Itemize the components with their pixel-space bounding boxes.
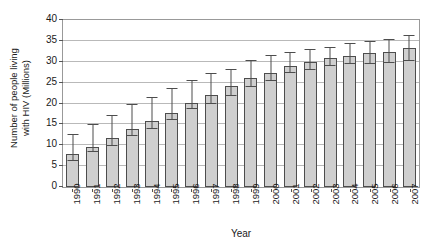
y-tick-label: 20 (35, 98, 57, 108)
x-tick-label: 2003 (331, 183, 341, 204)
x-tick-label: 1993 (132, 183, 142, 204)
bar-slot[interactable] (103, 20, 123, 187)
x-tick-slot: 2007 (400, 189, 420, 229)
x-tick-label: 2007 (410, 183, 420, 204)
error-bar-cap-upper (67, 134, 78, 135)
error-bar-cap-upper (344, 43, 355, 44)
bar-slot[interactable] (360, 20, 380, 187)
x-tick-label: 2005 (370, 183, 380, 204)
x-axis-title: Year (62, 228, 420, 239)
bar[interactable] (106, 138, 119, 187)
bar[interactable] (165, 113, 178, 187)
bar[interactable] (225, 86, 238, 187)
error-bar-cap-upper (384, 39, 395, 40)
x-tick-slot: 1997 (201, 189, 221, 229)
bar[interactable] (324, 58, 337, 187)
bar[interactable] (66, 154, 79, 187)
bar[interactable] (205, 95, 218, 187)
bar[interactable] (403, 48, 416, 187)
x-tick-label: 2006 (390, 183, 400, 204)
x-tick-label: 2000 (271, 183, 281, 204)
bar-slot[interactable] (83, 20, 103, 187)
x-tick-slot: 2000 (261, 189, 281, 229)
x-tick-slot: 2003 (321, 189, 341, 229)
bar[interactable] (284, 66, 297, 187)
y-tick-label: 15 (35, 118, 57, 128)
x-tick-slot: 1995 (161, 189, 181, 229)
x-tick-slot: 1992 (102, 189, 122, 229)
error-bar-cap-upper (147, 97, 158, 98)
x-tick-slot: 1991 (82, 189, 102, 229)
bar[interactable] (145, 121, 158, 187)
error-bar-cap-upper (364, 41, 375, 42)
x-tick-slot: 1998 (221, 189, 241, 229)
x-tick-label: 2004 (350, 183, 360, 204)
bar-slot[interactable] (182, 20, 202, 187)
x-tick-label: 1994 (152, 183, 162, 204)
bar-slot[interactable] (201, 20, 221, 187)
x-tick-slot: 2002 (301, 189, 321, 229)
x-tick-slot: 2004 (340, 189, 360, 229)
error-bar-cap-upper (206, 73, 217, 74)
bar[interactable] (86, 147, 99, 187)
bar-slot[interactable] (380, 20, 400, 187)
error-bar-cap-upper (87, 124, 98, 125)
x-tick-label: 1991 (92, 183, 102, 204)
x-tick-label: 1996 (191, 183, 201, 204)
error-bar-cap-upper (166, 88, 177, 89)
x-tick-slot: 1994 (142, 189, 162, 229)
x-tick-label: 2002 (311, 183, 321, 204)
bar-slot[interactable] (241, 20, 261, 187)
hiv-prevalence-bar-chart: Number of people living with HIV (Millio… (0, 0, 438, 247)
y-tick-label: 40 (35, 14, 57, 24)
error-bar-cap-upper (127, 104, 138, 105)
bar-slot[interactable] (261, 20, 281, 187)
y-axis-tick-labels: 4035302520151050 (33, 0, 57, 247)
error-bar-cap-upper (285, 52, 296, 53)
bar-slot[interactable] (281, 20, 301, 187)
bar-slot[interactable] (63, 20, 83, 187)
bar-slot[interactable] (162, 20, 182, 187)
bar-slot[interactable] (142, 20, 162, 187)
bar[interactable] (244, 78, 257, 187)
bar-slot[interactable] (340, 20, 360, 187)
error-bar-cap-upper (404, 35, 415, 36)
bar[interactable] (363, 53, 376, 187)
bar-slot[interactable] (221, 20, 241, 187)
bar[interactable] (264, 73, 277, 187)
error-bar-cap-upper (245, 60, 256, 61)
x-tick-slot: 1999 (241, 189, 261, 229)
y-tick-label: 25 (35, 77, 57, 87)
bar-series (63, 20, 419, 187)
bar-slot[interactable] (320, 20, 340, 187)
bar-slot[interactable] (122, 20, 142, 187)
y-axis-title-line-1: Number of people living (8, 48, 20, 148)
bar-slot[interactable] (300, 20, 320, 187)
x-tick-slot: 2001 (281, 189, 301, 229)
y-tick-label: 35 (35, 35, 57, 45)
x-tick-label: 1998 (231, 183, 241, 204)
y-tick-label: 5 (35, 160, 57, 170)
x-tick-label: 1992 (112, 183, 122, 204)
y-tick-label: 0 (35, 181, 57, 191)
bar[interactable] (343, 56, 356, 188)
bar-slot[interactable] (399, 20, 419, 187)
bar[interactable] (304, 62, 317, 187)
bar[interactable] (126, 129, 139, 187)
error-bar-cap-upper (305, 49, 316, 50)
x-tick-label: 1999 (251, 183, 261, 204)
x-tick-slot: 1990 (62, 189, 82, 229)
x-tick-label: 1990 (72, 183, 82, 204)
y-tick-label: 30 (35, 56, 57, 66)
y-tick-label: 10 (35, 139, 57, 149)
x-tick-slot: 2005 (360, 189, 380, 229)
y-axis-title-line-2: with HIV (Millions) (20, 48, 32, 148)
x-axis-tick-labels: 1990199119921993199419951996199719981999… (62, 189, 420, 229)
error-bar-cap-upper (226, 69, 237, 70)
x-tick-slot: 1996 (181, 189, 201, 229)
bar[interactable] (185, 103, 198, 187)
x-tick-slot: 2006 (380, 189, 400, 229)
error-bar-cap-upper (265, 55, 276, 56)
bar[interactable] (383, 52, 396, 187)
error-bar-cap-upper (186, 80, 197, 81)
